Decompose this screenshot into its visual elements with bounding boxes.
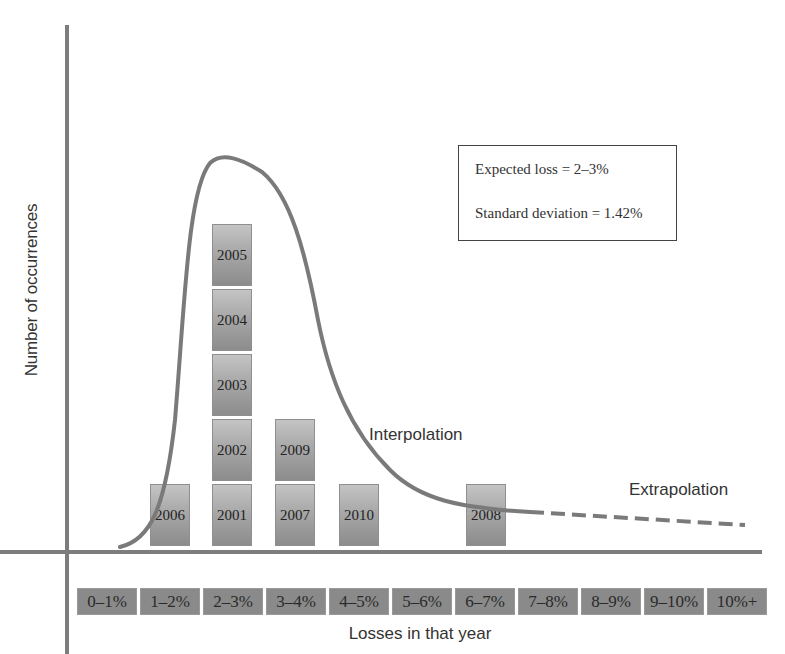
loss-bins: 0–1% 1–2% 2–3% 3–4% 4–5% 5–6% 6–7% 7–8% … [77, 588, 767, 615]
expected-loss-text: Expected loss = 2–3% [475, 161, 609, 178]
bin-0-1: 0–1% [77, 588, 137, 615]
bin-8-9: 8–9% [581, 588, 641, 615]
loss-distribution-chart: Number of occurrences 2006 2001 2002 200… [0, 0, 785, 654]
bin-9-10: 9–10% [644, 588, 704, 615]
std-dev-text: Standard deviation = 1.42% [475, 205, 643, 222]
bin-10-plus: 10%+ [707, 588, 767, 615]
bin-6-7: 6–7% [455, 588, 515, 615]
x-axis-label: Losses in that year [0, 624, 785, 644]
bin-3-4: 3–4% [266, 588, 326, 615]
stats-box: Expected loss = 2–3% Standard deviation … [458, 145, 677, 241]
bin-7-8: 7–8% [518, 588, 578, 615]
bin-4-5: 4–5% [329, 588, 389, 615]
bin-1-2: 1–2% [140, 588, 200, 615]
distribution-curve [0, 0, 785, 654]
bin-5-6: 5–6% [392, 588, 452, 615]
extrapolation-dashed-line [530, 512, 745, 525]
bin-2-3: 2–3% [203, 588, 263, 615]
interpolation-label: Interpolation [369, 425, 463, 445]
extrapolation-label: Extrapolation [629, 480, 728, 500]
